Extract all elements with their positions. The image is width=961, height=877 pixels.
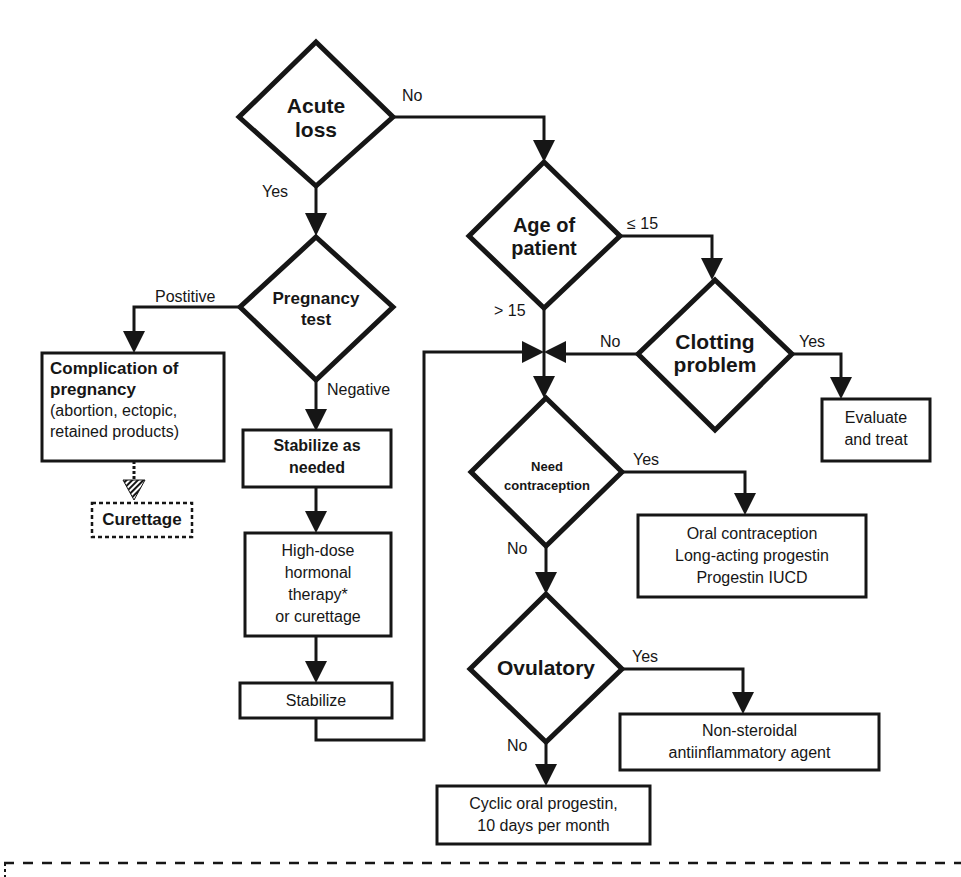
decision-pregnancy-test: Pregnancy test bbox=[256, 288, 376, 330]
decision-age-of-patient: Age of patient bbox=[494, 214, 594, 260]
box-evaluate-and-treat: Evaluate and treat bbox=[822, 407, 930, 451]
decision-need-contraception: Need contraception bbox=[486, 457, 608, 495]
edge-label-ovul-no: No bbox=[507, 737, 527, 755]
decision-clotting-problem: Clotting problem bbox=[660, 330, 770, 376]
edge-label-age-le15: ≤ 15 bbox=[627, 215, 658, 233]
box-complication-of-pregnancy: Complication of pregnancy (abortion, ect… bbox=[50, 358, 220, 442]
edge-label-acute-yes: Yes bbox=[262, 183, 288, 201]
edge-label-ovul-yes: Yes bbox=[632, 648, 658, 666]
decision-ovulatory: Ovulatory bbox=[480, 656, 612, 680]
edge-label-preg-negative: Negative bbox=[327, 381, 390, 399]
edge-label-clotting-no: No bbox=[600, 333, 620, 351]
box-nsaid: Non-steroidal antiinflammatory agent bbox=[620, 720, 879, 764]
box-high-dose-therapy: High-dose hormonal therapy* or curettage bbox=[245, 540, 391, 628]
edge-label-clotting-yes: Yes bbox=[799, 333, 825, 351]
hatched-arrow bbox=[123, 480, 145, 500]
edge-label-contra-no: No bbox=[507, 540, 527, 558]
box-curettage: Curettage bbox=[92, 509, 192, 531]
edge-label-age-gt15: > 15 bbox=[494, 302, 526, 320]
box-contraception-options: Oral contraception Long-acting progestin… bbox=[638, 523, 866, 589]
edge-label-contra-yes: Yes bbox=[633, 451, 659, 469]
decision-acute-loss: Acute loss bbox=[266, 94, 366, 142]
box-stabilize: Stabilize bbox=[240, 690, 392, 712]
box-cyclic-oral-progestin: Cyclic oral progestin, 10 days per month bbox=[437, 793, 650, 837]
box-stabilize-as-needed: Stabilize as needed bbox=[243, 435, 391, 479]
edge-label-acute-no: No bbox=[402, 87, 422, 105]
edge-label-preg-positive: Postitive bbox=[155, 288, 215, 306]
